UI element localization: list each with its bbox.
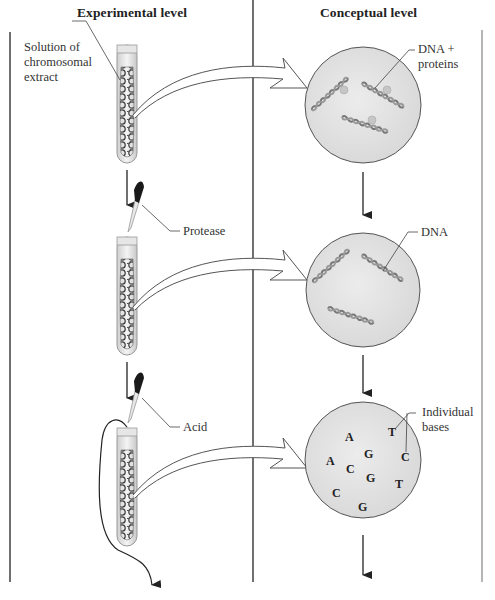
protein-blob: [383, 86, 391, 94]
diagram-canvas: A T G C A C G T C G: [0, 0, 495, 600]
curved-arrow-2: [133, 250, 307, 310]
base-letter: A: [345, 430, 354, 444]
label-acid: Acid: [183, 420, 207, 435]
base-letter: G: [366, 471, 375, 485]
base-letter: A: [326, 454, 335, 468]
base-letter: T: [395, 477, 403, 491]
test-tube-1: [117, 45, 137, 163]
test-tube-3: [117, 428, 137, 546]
base-letter: T: [388, 425, 396, 439]
pipette-acid: [128, 373, 144, 423]
leader-line-protease: [142, 205, 180, 231]
leader-line-acid: [142, 398, 180, 427]
base-letter: C: [401, 450, 410, 464]
conceptual-circle-dna-proteins: [305, 47, 421, 163]
protein-blob: [340, 86, 348, 94]
base-letter: G: [358, 500, 367, 514]
label-line: extract: [24, 70, 92, 85]
curved-arrow-3: [133, 438, 307, 498]
base-letter: C: [346, 462, 355, 476]
label-protease: Protease: [183, 224, 225, 239]
label-individual-bases: Individual bases: [422, 405, 473, 435]
label-dna: DNA: [421, 225, 448, 240]
label-line: Solution of: [24, 40, 92, 55]
label-line: Individual: [422, 405, 473, 420]
curved-arrow-1: [133, 58, 307, 118]
base-letter: G: [364, 447, 373, 461]
label-line: proteins: [418, 57, 458, 72]
label-line: chromosomal: [24, 55, 92, 70]
label-dna-proteins: DNA + proteins: [418, 42, 458, 72]
base-letter: C: [332, 486, 341, 500]
label-line: bases: [422, 420, 473, 435]
label-chromosomal-extract: Solution of chromosomal extract: [24, 40, 92, 85]
label-line: DNA +: [418, 42, 458, 57]
test-tube-2: [117, 237, 137, 355]
protein-blob: [368, 116, 376, 124]
pipette-protease: [128, 182, 144, 232]
conceptual-circle-dna: [306, 233, 420, 347]
